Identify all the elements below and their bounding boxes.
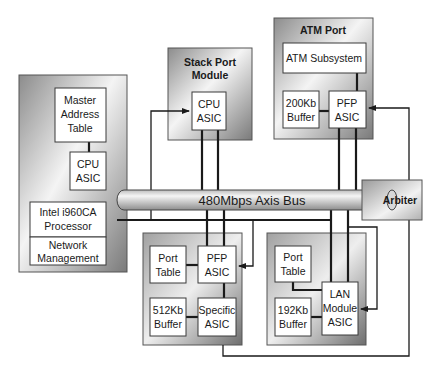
module-a-buffer: 512Kb Buffer [150, 298, 186, 336]
atm-port-title: ATM Port [300, 24, 346, 36]
svg-text:CPU: CPU [198, 98, 220, 110]
svg-text:PFP: PFP [207, 252, 227, 264]
axis-bus: 480Mbps Axis Bus [117, 190, 397, 210]
arbiter-label: Arbiter [383, 194, 417, 206]
module-a-port-table: Port Table [150, 246, 186, 283]
lan-port-table: Port Table [275, 246, 311, 282]
svg-text:Buffer: Buffer [279, 318, 307, 330]
stack-cpu-asic: CPU ASIC [192, 92, 226, 130]
atm-buffer: 200Kb Buffer [283, 91, 319, 128]
atm-subsystem: ATM Subsystem [283, 43, 366, 73]
svg-text:Module: Module [192, 69, 229, 81]
svg-text:ATM Subsystem: ATM Subsystem [286, 52, 362, 64]
master-address-table: Master Address Table [55, 88, 106, 142]
bus-label: 480Mbps Axis Bus [199, 193, 306, 208]
svg-text:Network: Network [49, 239, 88, 251]
svg-text:ASIC: ASIC [205, 266, 230, 278]
svg-text:Port: Port [283, 251, 302, 263]
svg-text:Management: Management [37, 252, 98, 264]
svg-text:LAN: LAN [330, 288, 350, 300]
arbiter: Arbiter [362, 180, 422, 220]
svg-text:ASIC: ASIC [205, 318, 230, 330]
svg-text:Address: Address [61, 108, 100, 120]
architecture-diagram: 480Mbps Axis Bus Arbiter Master Address … [0, 0, 442, 379]
svg-text:Processor: Processor [44, 220, 92, 232]
svg-text:Buffer: Buffer [287, 111, 315, 123]
module-a-specific-asic: Specific ASIC [198, 298, 236, 336]
svg-text:ASIC: ASIC [335, 111, 360, 123]
svg-text:ASIC: ASIC [76, 172, 101, 184]
svg-text:Buffer: Buffer [154, 318, 182, 330]
svg-text:PFP: PFP [337, 97, 357, 109]
module-a-pfp-asic: PFP ASIC [198, 246, 236, 283]
svg-text:200Kb: 200Kb [286, 97, 317, 109]
svg-text:Table: Table [155, 266, 180, 278]
svg-text:Table: Table [280, 265, 305, 277]
svg-text:CPU: CPU [77, 158, 99, 170]
svg-text:192Kb: 192Kb [278, 304, 309, 316]
svg-text:Specific: Specific [199, 304, 236, 316]
lan-buffer: 192Kb Buffer [275, 298, 311, 336]
network-management: Network Management [30, 237, 106, 265]
svg-text:ASIC: ASIC [328, 316, 353, 328]
svg-text:Stack Port: Stack Port [184, 56, 236, 68]
atm-pfp-asic: PFP ASIC [329, 91, 366, 128]
svg-text:512Kb: 512Kb [153, 304, 184, 316]
intel-processor: Intel i960CA Processor [30, 202, 106, 237]
main-cpu-asic: CPU ASIC [70, 152, 106, 190]
svg-text:Intel i960CA: Intel i960CA [39, 206, 96, 218]
svg-text:ASIC: ASIC [197, 112, 222, 124]
svg-text:Master: Master [64, 94, 97, 106]
svg-text:Module: Module [323, 302, 358, 314]
lan-module-asic: LAN Module ASIC [322, 282, 358, 335]
svg-text:Table: Table [67, 122, 92, 134]
svg-text:Port: Port [158, 252, 177, 264]
